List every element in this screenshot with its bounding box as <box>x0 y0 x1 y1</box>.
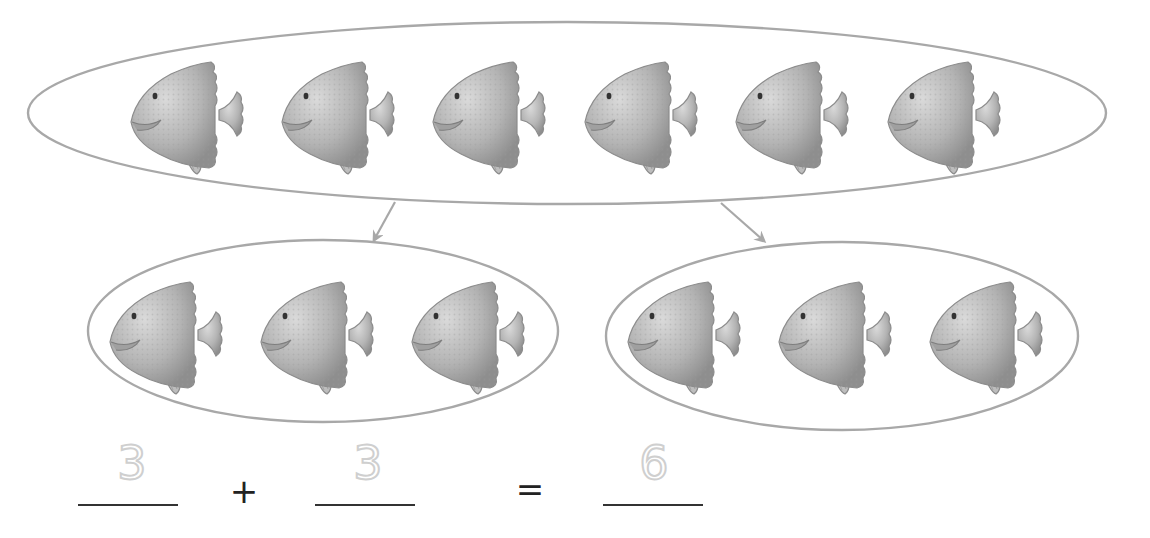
fish-icon <box>930 282 1042 394</box>
sum-blank[interactable] <box>603 504 703 506</box>
fish-icon <box>585 62 697 174</box>
subgroup-2-fish <box>628 282 1042 394</box>
sum-answer[interactable]: 6 <box>606 440 702 486</box>
fish-icon <box>888 62 1000 174</box>
arrow-right-icon <box>721 203 764 241</box>
total-group-fish <box>131 62 1000 174</box>
fish-icon <box>131 62 243 174</box>
fish-icon <box>261 282 373 394</box>
plus-sign: + <box>224 474 264 508</box>
subgroup-1-fish <box>110 282 524 394</box>
fish-icon <box>433 62 545 174</box>
addend-2-blank[interactable] <box>315 504 415 506</box>
addend-1-answer[interactable]: 3 <box>84 440 180 486</box>
arrow-left-icon <box>374 202 395 240</box>
fish-icon <box>282 62 394 174</box>
fish-icon <box>628 282 740 394</box>
addend-1-blank[interactable] <box>78 504 178 506</box>
fish-icon <box>412 282 524 394</box>
fish-icon <box>110 282 222 394</box>
addend-2-answer[interactable]: 3 <box>320 440 416 486</box>
fish-icon <box>779 282 891 394</box>
number-bond-worksheet: 3 + 3 = 6 <box>0 0 1150 538</box>
equals-sign: = <box>510 472 550 506</box>
fish-icon <box>736 62 848 174</box>
